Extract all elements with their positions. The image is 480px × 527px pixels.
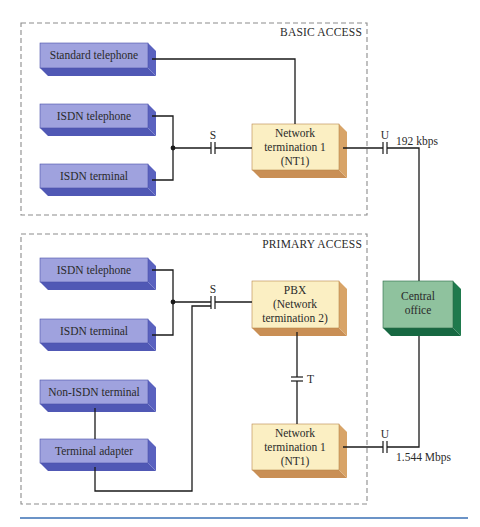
u-reference-point-primary: U <box>381 428 390 453</box>
primary-isdn-terminal-box: ISDN terminal <box>40 319 156 351</box>
basic-isdn-terminal-box: ISDN terminal <box>40 164 156 196</box>
basic-standard-telephone-box: Standard telephone <box>40 43 156 76</box>
svg-text:S: S <box>210 283 216 295</box>
basic-nt1-box: Network termination 1 (NT1) <box>252 124 347 178</box>
t-reference-point: T <box>291 373 314 385</box>
primary-isdn-telephone-box: ISDN telephone <box>40 258 156 290</box>
nt1-label-line1: Network <box>275 427 315 439</box>
central-office-line2: office <box>405 304 432 316</box>
pbx-label-line3: termination 2) <box>262 312 328 325</box>
device-label: ISDN telephone <box>57 264 131 277</box>
pbx-label-line2: (Network <box>273 298 317 311</box>
s-reference-point-basic: S <box>210 129 216 154</box>
central-office-box: Central office <box>383 281 461 336</box>
primary-non-isdn-terminal-box: Non-ISDN terminal <box>40 380 156 412</box>
device-label: Terminal adapter <box>55 445 133 458</box>
basic-rate-label: 192 kbps <box>396 135 438 148</box>
device-label: ISDN terminal <box>60 325 128 337</box>
wire-u-to-central-office <box>387 148 419 281</box>
device-label: ISDN telephone <box>57 110 131 123</box>
wire-u-to-central-office-primary <box>387 332 419 447</box>
primary-rate-label: 1.544 Mbps <box>396 451 451 464</box>
device-label: Non-ISDN terminal <box>48 386 140 398</box>
nt1-label-line2: termination 1 <box>264 441 326 453</box>
svg-text:U: U <box>381 428 390 440</box>
svg-text:T: T <box>307 373 314 385</box>
device-label: ISDN terminal <box>60 170 128 182</box>
device-label: Standard telephone <box>50 49 138 62</box>
s-reference-point-primary: S <box>210 283 216 309</box>
u-reference-point-basic: U <box>381 129 390 154</box>
nt1-label-line1: Network <box>275 127 315 139</box>
wire-standard-telephone-to-nt1 <box>152 59 295 124</box>
nt1-label-line3: (NT1) <box>281 155 310 168</box>
pbx-box: PBX (Network termination 2) <box>252 281 347 336</box>
central-office-line1: Central <box>401 290 435 302</box>
nt1-label-line3: (NT1) <box>281 455 310 468</box>
primary-access-title: PRIMARY ACCESS <box>262 238 362 250</box>
basic-access-title: BASIC ACCESS <box>280 26 362 38</box>
isdn-access-diagram: BASIC ACCESS Standard telephone ISDN tel… <box>0 0 480 527</box>
primary-terminal-adapter-box: Terminal adapter <box>40 439 156 471</box>
primary-nt1-box: Network termination 1 (NT1) <box>252 424 347 478</box>
svg-text:S: S <box>210 129 216 141</box>
pbx-label-line1: PBX <box>284 284 307 296</box>
svg-text:U: U <box>381 129 390 141</box>
nt1-label-line2: termination 1 <box>264 141 326 153</box>
basic-isdn-telephone-box: ISDN telephone <box>40 104 156 136</box>
